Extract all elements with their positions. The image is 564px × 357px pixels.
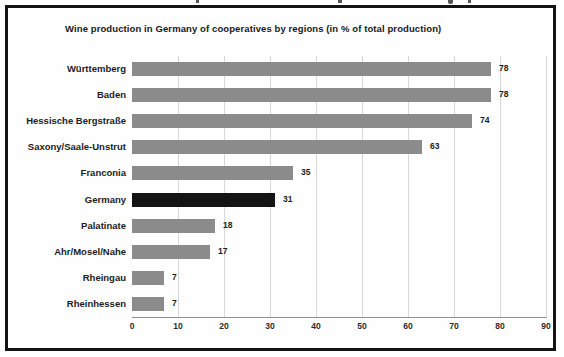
bar-value-label: 74 [480,115,489,125]
category-label: Palatinate [18,220,126,231]
category-axis-labels: WürttembergBadenHessische BergstraßeSaxo… [18,56,126,317]
bar-row: 7 [132,297,546,311]
bar-Saxony/Saale-Unstrut [132,140,422,154]
bar-Germany [132,193,275,207]
bar-value-label: 7 [172,272,177,282]
bar-row: 78 [132,88,546,102]
bar-row: 74 [132,114,546,128]
bar-row: 18 [132,219,546,233]
x-tick-label-50: 50 [357,321,366,331]
x-tick-label-20: 20 [219,321,228,331]
bar-value-label: 78 [499,89,508,99]
category-label: Ahr/Mosel/Nahe [18,246,126,257]
bar-value-label: 35 [301,167,310,177]
category-label: Franconia [18,167,126,178]
bar-value-label: 18 [223,220,232,230]
bar-value-label: 7 [172,298,177,308]
bar-Ahr/Mosel/Nahe [132,245,210,259]
bar-value-label: 78 [499,63,508,73]
category-label: Baden [18,89,126,100]
x-tick-label-80: 80 [495,321,504,331]
x-tick-label-70: 70 [449,321,458,331]
plot-area: 787874633531181777 [132,56,547,318]
x-tick-label-0: 0 [130,321,135,331]
bar-value-label: 17 [218,246,227,256]
bar-Palatinate [132,219,215,233]
bar-row: 63 [132,140,546,154]
category-label: Rheingau [18,272,126,283]
category-label: Württemberg [18,63,126,74]
category-label: Saxony/Saale-Unstrut [18,141,126,152]
x-tick-label-10: 10 [173,321,182,331]
cropped-text-remnant [468,0,471,3]
x-tick-label-90: 90 [541,321,550,331]
bar-row: 7 [132,271,546,285]
bar-value-label: 31 [283,194,292,204]
bar-row: 78 [132,62,546,76]
cropped-text-remnant [196,0,199,3]
category-label: Hessische Bergstraße [18,115,126,126]
bar-Rheingau [132,271,164,285]
bar-Hessische Bergstraße [132,114,472,128]
category-label: Germany [18,194,126,205]
x-tick-label-60: 60 [403,321,412,331]
x-tick-label-40: 40 [311,321,320,331]
bar-Rheinhessen [132,297,164,311]
category-label: Rheinhessen [18,298,126,309]
bar-row: 17 [132,245,546,259]
x-axis-tick-labels: 0102030405060708090 [132,321,546,335]
gridline-x-90 [546,56,547,317]
cropped-text-remnant [448,0,453,4]
bar-Württemberg [132,62,491,76]
bar-Franconia [132,166,293,180]
bar-value-label: 63 [430,141,439,151]
bar-row: 35 [132,166,546,180]
chart-title: Wine production in Germany of cooperativ… [65,23,441,34]
bar-Baden [132,88,491,102]
bar-row: 31 [132,193,546,207]
x-tick-label-30: 30 [265,321,274,331]
chart-frame: Wine production in Germany of cooperativ… [5,5,556,351]
cropped-text-remnant [338,0,342,3]
